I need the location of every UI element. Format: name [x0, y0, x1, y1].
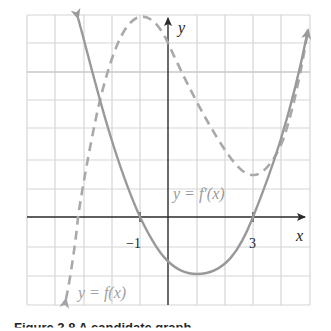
f-label: y = f(x): [76, 284, 126, 302]
x-axis-label: x: [295, 227, 303, 244]
y-axis-label: y: [176, 19, 186, 37]
figure: y x −1 3 y = f′(x) y = f(x): [0, 0, 331, 331]
curve-f: [66, 17, 308, 299]
fprime-label: y = f′(x): [171, 185, 225, 203]
tick-label-3: 3: [249, 236, 256, 251]
tick-label-neg1: −1: [126, 236, 141, 251]
